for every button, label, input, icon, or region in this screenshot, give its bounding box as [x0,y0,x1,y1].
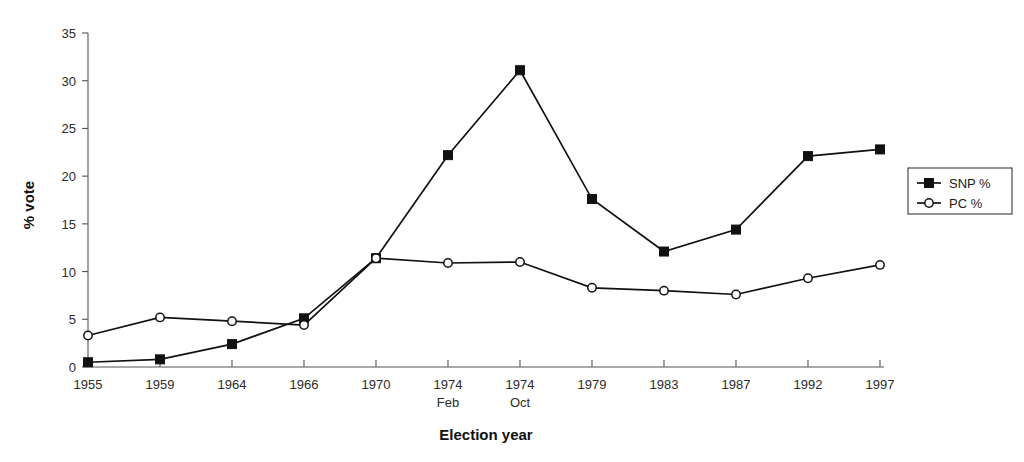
chart-legend: SNP %PC % [908,168,1012,214]
y-tick-label: 15 [62,217,76,232]
x-tick-label: 1964 [218,377,247,392]
y-axis-ticks: 05101520253035 [62,26,88,375]
x-tick-label: 1974 [434,377,463,392]
y-tick-label: 30 [62,74,76,89]
data-point-marker [444,151,453,160]
data-point-marker [228,340,237,349]
x-tick-label: 1974 [506,377,535,392]
legend-label: PC % [949,196,983,211]
legend-marker [925,199,933,207]
x-axis-title: Election year [439,426,533,443]
x-tick-label: 1970 [362,377,391,392]
y-tick-label: 35 [62,26,76,41]
data-point-marker [876,145,885,154]
data-series-group [84,66,885,367]
data-point-marker [156,355,165,364]
x-tick-label: 1983 [650,377,679,392]
series-line-pc [88,258,880,335]
x-tick-label: 1979 [578,377,607,392]
data-point-marker [444,259,452,267]
data-point-marker [84,331,92,339]
data-point-marker [300,321,308,329]
x-tick-sublabel: Oct [510,395,531,410]
x-tick-label: 1955 [74,377,103,392]
data-point-marker [876,261,884,269]
data-point-marker [516,66,525,75]
data-point-marker [804,274,812,282]
legend-marker [925,179,934,188]
data-point-marker [732,225,741,234]
x-tick-label: 1966 [290,377,319,392]
data-point-marker [84,358,93,367]
data-point-marker [588,195,597,204]
data-point-marker [156,313,164,321]
data-point-marker [660,286,668,294]
y-tick-label: 25 [62,121,76,136]
x-tick-label: 1997 [866,377,895,392]
data-point-marker [804,152,813,161]
legend-label: SNP % [949,176,991,191]
x-tick-sublabel: Feb [437,395,459,410]
line-chart: 05101520253035 195519591964196619701974F… [0,0,1024,462]
data-point-marker [588,284,596,292]
data-point-marker [732,290,740,298]
y-axis-title: % vote [20,181,37,229]
y-tick-label: 0 [69,360,76,375]
chart-figure: 05101520253035 195519591964196619701974F… [0,0,1024,462]
data-point-marker [372,254,380,262]
y-tick-label: 20 [62,169,76,184]
x-tick-label: 1959 [146,377,175,392]
x-tick-label: 1987 [722,377,751,392]
data-point-marker [516,258,524,266]
data-point-marker [228,317,236,325]
data-point-marker [660,247,669,256]
x-tick-label: 1992 [794,377,823,392]
series-line-snp [88,70,880,362]
y-tick-label: 5 [69,312,76,327]
y-tick-label: 10 [62,265,76,280]
